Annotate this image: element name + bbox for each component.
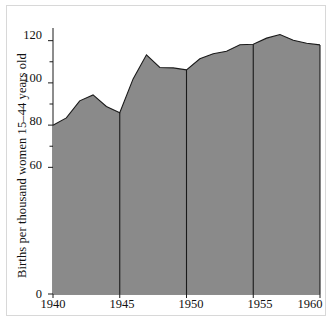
chart-canvas xyxy=(0,0,334,326)
